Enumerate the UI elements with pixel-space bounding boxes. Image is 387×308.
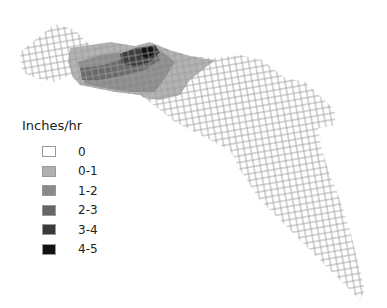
legend-item: 0 bbox=[22, 142, 98, 162]
legend-swatch bbox=[42, 205, 56, 216]
legend-swatch bbox=[42, 185, 56, 196]
legend-label: 4-5 bbox=[78, 242, 98, 256]
legend-swatch bbox=[42, 224, 56, 235]
legend-item: 1-2 bbox=[22, 181, 98, 201]
legend-swatch bbox=[42, 146, 56, 157]
legend-label: 1-2 bbox=[78, 184, 98, 198]
legend: Inches/hr 00-11-22-33-44-5 bbox=[22, 118, 98, 259]
legend-item: 3-4 bbox=[22, 220, 98, 240]
legend-swatch bbox=[42, 244, 56, 255]
legend-label: 2-3 bbox=[78, 203, 98, 217]
legend-label: 0 bbox=[78, 145, 86, 159]
legend-label: 3-4 bbox=[78, 223, 98, 237]
legend-item: 0-1 bbox=[22, 162, 98, 182]
legend-item: 2-3 bbox=[22, 201, 98, 221]
legend-item: 4-5 bbox=[22, 240, 98, 260]
legend-label: 0-1 bbox=[78, 164, 98, 178]
legend-title: Inches/hr bbox=[22, 118, 98, 133]
legend-swatch bbox=[42, 166, 56, 177]
